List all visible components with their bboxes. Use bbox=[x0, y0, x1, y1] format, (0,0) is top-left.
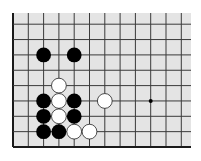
white-stone[interactable] bbox=[52, 109, 67, 124]
black-stone[interactable] bbox=[36, 109, 51, 124]
black-stone[interactable] bbox=[67, 109, 82, 124]
black-stone[interactable] bbox=[36, 94, 51, 109]
black-stone[interactable] bbox=[36, 48, 51, 63]
white-stone[interactable] bbox=[52, 94, 67, 109]
star-points bbox=[149, 99, 153, 103]
star-point bbox=[149, 99, 153, 103]
white-stone[interactable] bbox=[52, 78, 67, 93]
black-stone[interactable] bbox=[52, 124, 67, 139]
black-stone[interactable] bbox=[67, 94, 82, 109]
white-stone[interactable] bbox=[82, 124, 97, 139]
go-board[interactable] bbox=[0, 0, 201, 161]
black-stone[interactable] bbox=[36, 124, 51, 139]
black-stone[interactable] bbox=[67, 48, 82, 63]
white-stone[interactable] bbox=[97, 94, 112, 109]
white-stone[interactable] bbox=[67, 124, 82, 139]
